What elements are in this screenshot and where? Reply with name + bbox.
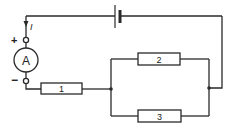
terminal-plus <box>23 37 28 42</box>
current-arrow-icon <box>24 21 29 27</box>
resistor-3-label: 3 <box>157 112 162 122</box>
terminal-minus <box>23 78 28 83</box>
plus-sign: + <box>11 34 17 46</box>
minus-sign: − <box>11 73 18 87</box>
ammeter-label: A <box>22 54 30 68</box>
wire-to-r1 <box>26 84 41 89</box>
junction-right <box>207 86 211 90</box>
resistor-1-label: 1 <box>59 84 64 94</box>
battery-icon <box>115 5 120 28</box>
circuit-diagram: I + A − 1 2 3 <box>0 0 232 131</box>
current-label: I <box>30 22 33 32</box>
wire-right <box>209 16 222 88</box>
resistor-2-label: 2 <box>156 55 161 65</box>
